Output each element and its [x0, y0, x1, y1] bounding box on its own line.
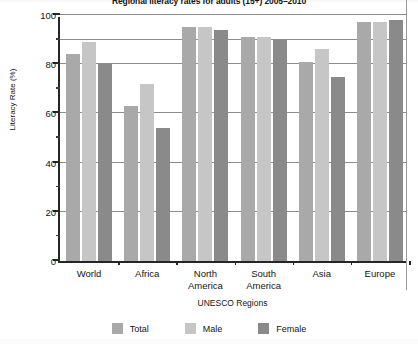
x-axis-category-label: World — [77, 268, 102, 280]
y-axis-tick-label: 20 — [26, 206, 56, 217]
bar-male — [198, 27, 212, 261]
scan-edge-bottom — [0, 339, 418, 344]
legend-swatch-female — [258, 323, 269, 334]
x-axis-label: UNESCO Regions — [58, 298, 407, 308]
x-axis-tick — [118, 261, 120, 265]
x-axis-tick — [176, 261, 178, 265]
bar-male — [373, 22, 387, 261]
chart-page: Regional literacy rates for adults (15+)… — [0, 0, 418, 344]
bar-total — [66, 54, 80, 261]
y-axis-tick-label: 60 — [26, 108, 56, 119]
bar-male — [82, 42, 96, 261]
plot-area: 020406080100 WorldAfricaNorth AmericaSou… — [58, 17, 407, 263]
bar-male — [257, 37, 271, 261]
legend-label: Male — [203, 324, 223, 334]
bar-total — [299, 62, 313, 261]
y-axis-tick-label: 40 — [26, 157, 56, 168]
y-axis-tick-label: 100 — [26, 10, 56, 21]
y-axis-tick-label: 0 — [26, 256, 56, 267]
bar-female — [389, 20, 403, 261]
bar-female — [214, 30, 228, 261]
bar-total — [124, 106, 138, 261]
x-axis-tick — [235, 261, 237, 265]
y-axis-tick-label: 80 — [26, 59, 56, 70]
x-axis-tick — [351, 261, 353, 265]
legend-item-female[interactable]: Female — [258, 323, 306, 334]
bar-groups — [60, 17, 407, 261]
legend-swatch-total — [112, 323, 123, 334]
bar-female — [273, 40, 287, 261]
y-axis-label: Literacy Rate (%) — [8, 45, 17, 155]
legend-item-male[interactable]: Male — [185, 323, 223, 334]
legend-label: Female — [276, 324, 306, 334]
x-axis-category-label: Europe — [365, 268, 396, 280]
bar-total — [357, 22, 371, 261]
legend-item-total[interactable]: Total — [112, 323, 149, 334]
x-axis-category-label: Asia — [313, 268, 331, 280]
x-axis-tick — [409, 261, 411, 265]
bar-total — [182, 27, 196, 261]
x-axis-tick — [293, 261, 295, 265]
bar-female — [331, 77, 345, 262]
x-axis-category-label: South America — [246, 268, 281, 291]
bar-male — [315, 49, 329, 261]
x-axis-category-label: Africa — [135, 268, 159, 280]
legend-label: Total — [130, 324, 149, 334]
bar-female — [98, 64, 112, 261]
chart-legend: TotalMaleFemale — [0, 323, 418, 334]
plot-right-border — [406, 0, 407, 290]
gridline — [60, 14, 407, 15]
chart-title: Regional literacy rates for adults (15+)… — [0, 0, 418, 7]
bar-total — [241, 37, 255, 261]
legend-swatch-male — [185, 323, 196, 334]
x-axis-category-label: North America — [188, 268, 223, 291]
bar-female — [156, 128, 170, 261]
bar-male — [140, 84, 154, 261]
